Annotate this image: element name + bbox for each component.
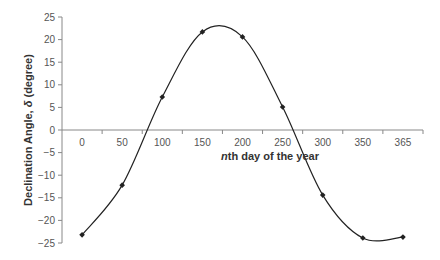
y-tick-label: 20	[44, 34, 56, 45]
data-point-marker	[280, 104, 286, 110]
y-tick-label: −15	[38, 192, 55, 203]
y-axis-ticks: 2520151050−5−10−15−20−25	[38, 12, 62, 249]
x-tick-label: 200	[234, 137, 251, 148]
x-tick-label: 250	[274, 137, 291, 148]
x-axis-title: nth day of the year	[221, 150, 320, 162]
y-tick-label: −5	[44, 147, 56, 158]
data-point-marker	[119, 182, 125, 188]
data-point-marker	[360, 235, 366, 241]
y-tick-label: 25	[44, 12, 56, 23]
y-tick-label: 5	[49, 102, 55, 113]
y-axis-title: Declination Angle, δ (degree)	[22, 54, 34, 206]
y-axis-title-suffix: (degree)	[22, 54, 34, 101]
x-tick-label: 150	[194, 137, 211, 148]
data-point-marker	[320, 192, 326, 198]
data-point-marker	[400, 234, 406, 240]
data-line	[82, 26, 403, 241]
x-axis-tick-labels: 050100150200250300350365	[79, 137, 411, 148]
declination-angle-chart: 2520151050−5−10−15−20−25 050100150200250…	[0, 0, 440, 260]
y-tick-label: 15	[44, 57, 56, 68]
y-axis-title-prefix: Declination Angle,	[22, 107, 34, 206]
x-tick-label: 50	[117, 137, 129, 148]
y-tick-label: 0	[49, 125, 55, 136]
x-tick-label: 0	[79, 137, 85, 148]
y-tick-label: 10	[44, 79, 56, 90]
y-tick-label: −10	[38, 170, 55, 181]
x-tick-label: 300	[314, 137, 331, 148]
y-tick-label: −20	[38, 215, 55, 226]
x-axis-ticks	[102, 130, 423, 134]
x-tick-label: 100	[154, 137, 171, 148]
data-point-marker	[159, 94, 165, 100]
x-axis-title-rest: th day of the year	[228, 150, 320, 162]
x-tick-label: 365	[395, 137, 412, 148]
x-tick-label: 350	[354, 137, 371, 148]
data-markers	[79, 29, 405, 241]
y-tick-label: −25	[38, 238, 55, 249]
